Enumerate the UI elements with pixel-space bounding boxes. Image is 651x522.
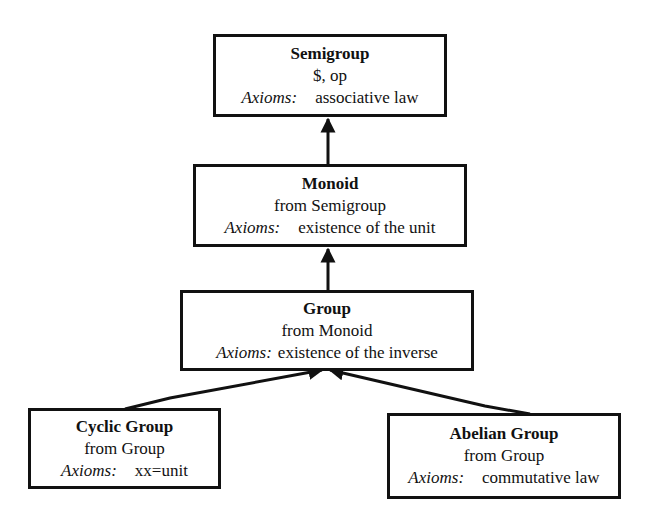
axiom-text: commutative law (482, 468, 600, 487)
node-semigroup: Semigroup $, op Axioms:associative law (213, 34, 447, 117)
node-title: Cyclic Group (76, 416, 173, 438)
node-abelian-group: Abelian Group from Group Axioms:commutat… (387, 413, 621, 499)
node-monoid: Monoid from Semigroup Axioms:existence o… (193, 164, 467, 247)
edge-abelian-to-group (330, 370, 530, 414)
node-axioms: Axioms:commutative law (408, 467, 599, 489)
node-subtitle: from Group (464, 445, 545, 467)
node-group: Group from Monoid Axioms:existence of th… (180, 290, 474, 371)
axiom-text: xx=unit (135, 461, 188, 480)
axiom-text: existence of the inverse (278, 343, 438, 362)
edge-cyclic-to-group (125, 370, 322, 409)
node-axioms: Axioms:associative law (241, 87, 418, 109)
node-subtitle: from Monoid (281, 320, 372, 342)
node-title: Group (303, 298, 351, 320)
axiom-text: existence of the unit (298, 218, 435, 237)
node-subtitle: $, op (313, 65, 347, 87)
axioms-label: Axioms: (224, 218, 280, 237)
node-axioms: Axioms:existence of the unit (224, 217, 435, 239)
axiom-text: associative law (315, 88, 418, 107)
node-subtitle: from Group (84, 438, 165, 460)
node-axioms: Axioms:existence of the inverse (216, 342, 438, 364)
node-title: Abelian Group (450, 423, 559, 445)
node-title: Semigroup (290, 43, 369, 65)
node-subtitle: from Semigroup (274, 195, 386, 217)
axioms-label: Axioms: (61, 461, 117, 480)
axioms-label: Axioms: (216, 343, 272, 362)
axioms-label: Axioms: (241, 88, 297, 107)
axioms-label: Axioms: (408, 468, 464, 487)
node-axioms: Axioms:xx=unit (61, 460, 188, 482)
node-cyclic-group: Cyclic Group from Group Axioms:xx=unit (28, 408, 221, 489)
node-title: Monoid (302, 173, 359, 195)
